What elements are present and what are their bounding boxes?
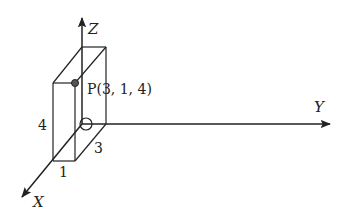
y-axis-label: Y [314,98,326,116]
point-p-label: P(3, 1, 4) [87,81,152,97]
dim-x-label: 1 [59,164,68,180]
dim-y-label: 3 [94,140,103,156]
x-axis-label: X [32,193,45,211]
dim-height-label: 4 [38,117,47,133]
coordinate-diagram: Z Y X P(3, 1, 4) 4 1 3 [0,0,344,224]
point-p-dot [72,80,79,87]
z-axis-label: Z [87,20,99,38]
